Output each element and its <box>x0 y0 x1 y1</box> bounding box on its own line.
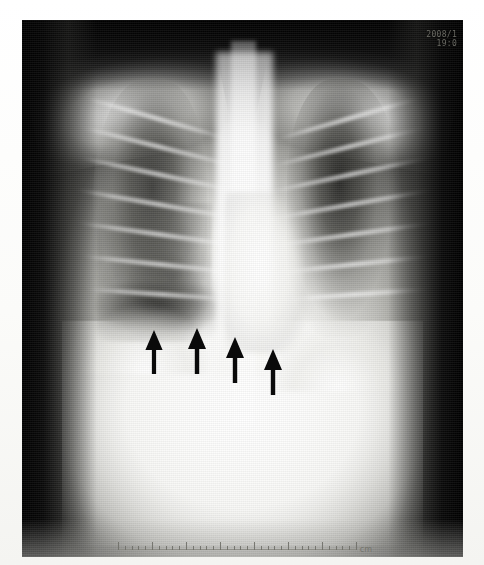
ruler-tick-major-20 <box>254 542 255 550</box>
ruler-tick-minor-1 <box>125 546 126 550</box>
ruler-tick-minor-18 <box>240 546 241 550</box>
arrow-4-marker <box>262 349 284 395</box>
ruler-tick-major-5 <box>152 542 153 550</box>
ruler-tick-minor-14 <box>213 546 214 550</box>
timestamp-overlay: 2008/1 19:0 <box>426 30 457 48</box>
ruler-tick-minor-6 <box>159 546 160 550</box>
ruler-tick-major-0 <box>118 542 119 550</box>
screenshot-root: 2008/1 19:0 cm <box>0 0 484 565</box>
ruler-tick-minor-28 <box>308 546 309 550</box>
ruler-tick-minor-8 <box>172 546 173 550</box>
ruler-tick-minor-24 <box>281 546 282 550</box>
chest-radiograph-image: 2008/1 19:0 <box>22 20 463 557</box>
ruler-tick-minor-19 <box>247 546 248 550</box>
ruler-tick-minor-27 <box>302 546 303 550</box>
arrow-3-marker <box>224 337 246 383</box>
ruler-baseline <box>118 549 356 550</box>
ruler-tick-minor-23 <box>274 546 275 550</box>
ruler-tick-minor-29 <box>315 546 316 550</box>
ruler-tick-minor-13 <box>206 546 207 550</box>
ruler-tick-minor-16 <box>227 546 228 550</box>
left-chest-wall-margin <box>388 20 463 557</box>
timestamp-date: 2008/1 <box>426 30 457 39</box>
arrow-2-marker <box>186 328 208 374</box>
timestamp-time: 19:0 <box>426 39 457 48</box>
ruler-tick-minor-32 <box>336 546 337 550</box>
ruler-tick-minor-4 <box>145 546 146 550</box>
ruler-tick-minor-26 <box>295 546 296 550</box>
ruler-tick-minor-17 <box>234 546 235 550</box>
ruler-tick-minor-7 <box>166 546 167 550</box>
ruler-tick-minor-33 <box>342 546 343 550</box>
ruler-tick-minor-3 <box>138 546 139 550</box>
ruler-tick-minor-2 <box>132 546 133 550</box>
ruler-tick-minor-22 <box>268 546 269 550</box>
ruler-tick-minor-21 <box>261 546 262 550</box>
right-chest-wall-margin <box>22 20 97 557</box>
arrow-1-marker <box>143 330 165 374</box>
ruler-tick-major-25 <box>288 542 289 550</box>
centimeter-ruler: cm <box>118 539 370 555</box>
ruler-tick-minor-31 <box>329 546 330 550</box>
ruler-tick-major-30 <box>322 542 323 550</box>
ruler-tick-minor-34 <box>349 546 350 550</box>
ruler-tick-major-35 <box>356 542 357 550</box>
ruler-tick-minor-11 <box>193 546 194 550</box>
ruler-tick-major-10 <box>186 542 187 550</box>
left-hemidiaphragm <box>269 305 406 391</box>
ruler-tick-major-15 <box>220 542 221 550</box>
ruler-unit-label: cm <box>360 545 372 554</box>
ruler-tick-minor-12 <box>200 546 201 550</box>
ruler-tick-minor-9 <box>179 546 180 550</box>
